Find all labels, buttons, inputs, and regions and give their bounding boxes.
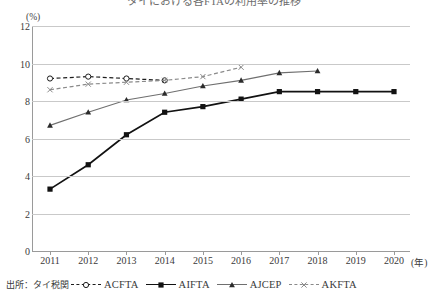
filled-square-marker [315, 89, 320, 94]
open-circle-marker [86, 74, 91, 79]
legend-label-ajcep: AJCEP [250, 279, 282, 290]
series-line-ajcep [50, 71, 318, 125]
gridline-2 [32, 214, 410, 215]
y-axis-tick-2: 2 [8, 208, 30, 219]
chart-legend: ACFTAAIFTAAJCEPAKFTA [71, 279, 364, 290]
x-axis-tick-2020: 2020 [384, 255, 404, 266]
gridline-4 [32, 176, 410, 177]
y-axis-tick-12: 12 [8, 21, 30, 32]
gridline-10 [32, 64, 410, 65]
chart-footer: 出所：タイ税関 ACFTAAIFTAAJCEPAKFTA [6, 278, 364, 291]
series-akfta [47, 65, 243, 93]
x-axis-tick-2012: 2012 [78, 255, 98, 266]
filled-triangle-marker [229, 281, 235, 286]
y-axis-tick-10: 10 [8, 58, 30, 69]
series-line-aifta [50, 92, 394, 190]
cross-x-marker [239, 65, 244, 70]
x-axis-tick-2013: 2013 [116, 255, 136, 266]
y-axis-tick-4: 4 [8, 171, 30, 182]
x-axis-tick-2015: 2015 [193, 255, 213, 266]
x-axis-tick-2019: 2019 [346, 255, 366, 266]
legend-marker-aifta [146, 280, 176, 290]
legend-marker-acfta [71, 280, 101, 290]
x-axis-tick-2011: 2011 [40, 255, 60, 266]
y-axis-tick-0: 0 [8, 246, 30, 257]
series-line-akfta [50, 67, 241, 90]
legend-item-ajcep[interactable]: AJCEP [217, 279, 282, 290]
open-circle-marker [47, 76, 52, 81]
filled-square-marker [124, 132, 129, 137]
legend-label-akfta: AKFTA [322, 279, 357, 290]
x-axis-unit-label: (年) [411, 255, 427, 269]
filled-square-marker [391, 89, 396, 94]
x-axis-tick-2018: 2018 [308, 255, 328, 266]
chart-container: タイにおける各FTAの利用率の推移 (%) 121086420 (年) 出所：タ… [0, 0, 428, 299]
source-note: 出所：タイ税関 [6, 278, 69, 291]
chart-title: タイにおける各FTAの利用率の推移 [0, 0, 428, 6]
legend-item-acfta[interactable]: ACFTA [71, 279, 139, 290]
cross-x-marker [301, 282, 306, 287]
legend-item-akfta[interactable]: AKFTA [289, 279, 357, 290]
filled-square-marker [162, 110, 167, 115]
legend-label-acfta: ACFTA [104, 279, 139, 290]
series-line-acfta [50, 77, 165, 81]
x-axis-tick-2014: 2014 [155, 255, 175, 266]
gridline-12 [32, 26, 410, 27]
gridline-6 [32, 139, 410, 140]
x-axis-tick-2017: 2017 [269, 255, 289, 266]
filled-square-marker [86, 162, 91, 167]
gridline-8 [32, 101, 410, 102]
filled-square-marker [47, 187, 52, 192]
filled-square-marker [158, 282, 163, 287]
filled-square-marker [200, 104, 205, 109]
legend-marker-akfta [289, 280, 319, 290]
plot-area [32, 26, 410, 251]
open-circle-marker [83, 282, 88, 287]
legend-label-aifta: AIFTA [179, 279, 210, 290]
y-axis-tick-6: 6 [8, 133, 30, 144]
x-axis-tick-2016: 2016 [231, 255, 251, 266]
y-axis-tick-8: 8 [8, 96, 30, 107]
legend-item-aifta[interactable]: AIFTA [146, 279, 210, 290]
y-axis-tick-labels: 121086420 [0, 0, 30, 299]
filled-square-marker [277, 89, 282, 94]
legend-marker-ajcep [217, 280, 247, 290]
filled-square-marker [353, 89, 358, 94]
